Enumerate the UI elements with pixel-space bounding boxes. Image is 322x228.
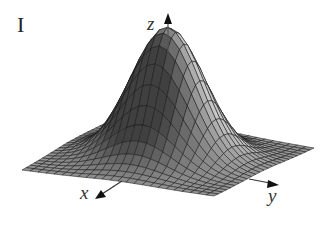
x-axis-label: x — [80, 183, 88, 202]
y-axis-label: y — [268, 186, 276, 205]
panel-label: I — [17, 14, 24, 36]
surface-mesh — [22, 27, 314, 196]
z-axis-label: z — [147, 14, 154, 33]
x-axis-arrow — [95, 181, 122, 199]
